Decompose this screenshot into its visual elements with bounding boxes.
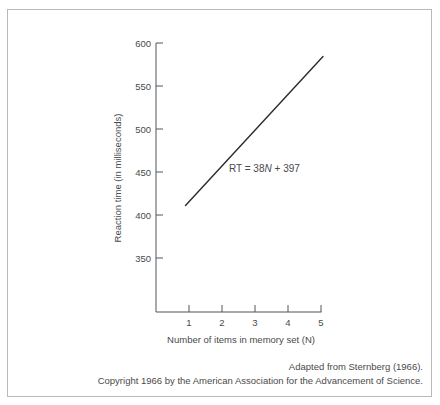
y-tick-label-500: 500	[135, 124, 151, 135]
x-tick-label-5: 5	[318, 317, 323, 328]
x-tick-label-3: 3	[252, 317, 257, 328]
chart-svg: 600 550 500 450 400 350 1 2 3 4	[8, 10, 433, 398]
chart-plot-area: 600 550 500 450 400 350 1 2 3 4	[8, 10, 433, 398]
figure-frame: 600 550 500 450 400 350 1 2 3 4	[7, 9, 432, 397]
data-line-reaction-time	[186, 57, 324, 206]
y-tick-marks	[156, 43, 163, 258]
caption-line-copyright: Copyright 1966 by the American Associati…	[18, 374, 423, 388]
figure-caption: Adapted from Sternberg (1966). Copyright…	[18, 360, 423, 388]
y-tick-label-350: 350	[135, 253, 151, 264]
y-tick-label-600: 600	[135, 38, 151, 49]
caption-line-source: Adapted from Sternberg (1966).	[18, 360, 423, 374]
x-tick-marks	[189, 305, 321, 312]
y-tick-label-450: 450	[135, 167, 151, 178]
x-tick-label-1: 1	[186, 317, 191, 328]
y-axis-title: Reaction time (in milliseconds)	[112, 114, 123, 243]
x-tick-label-2: 2	[219, 317, 224, 328]
regression-equation-annotation: RT = 38N + 397	[229, 163, 300, 174]
x-tick-label-4: 4	[285, 317, 290, 328]
y-tick-labels: 600 550 500 450 400 350	[135, 38, 151, 264]
equation-part-lhs: RT = 38	[229, 163, 265, 174]
y-tick-label-400: 400	[135, 210, 151, 221]
x-axis-title: Number of items in memory set (N)	[167, 334, 315, 345]
x-tick-labels: 1 2 3 4 5	[186, 317, 323, 328]
y-tick-label-550: 550	[135, 81, 151, 92]
equation-part-rhs: + 397	[272, 163, 301, 174]
